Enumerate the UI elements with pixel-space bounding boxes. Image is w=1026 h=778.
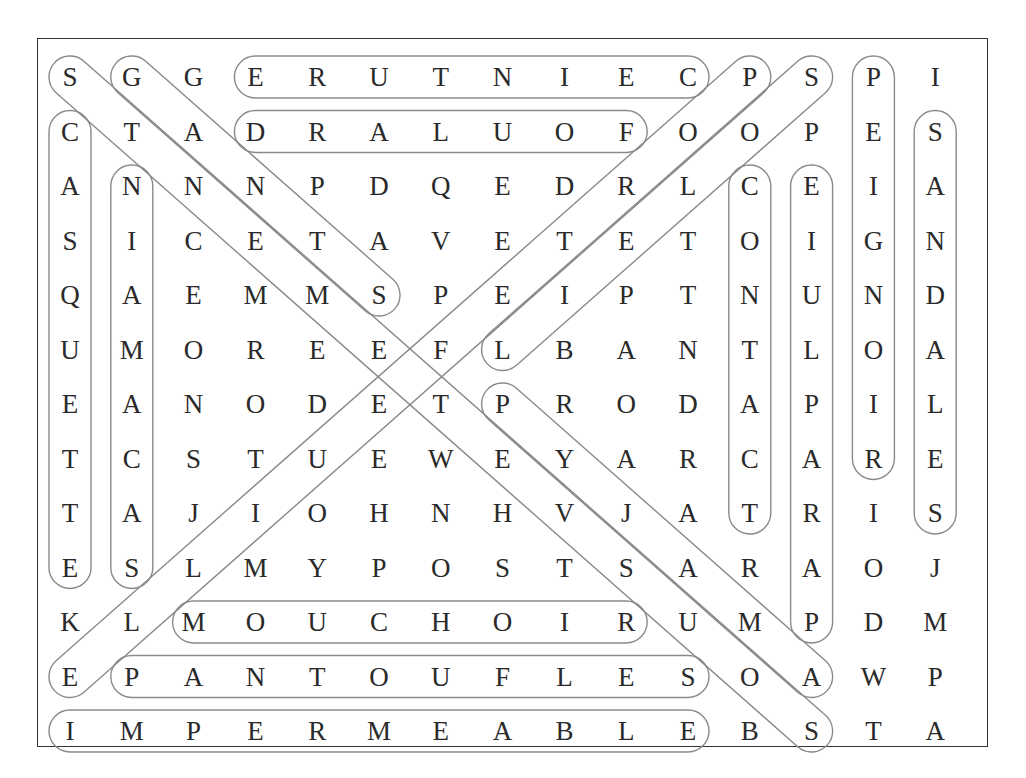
- grid-cell[interactable]: O: [616, 389, 636, 419]
- grid-cell[interactable]: E: [309, 335, 326, 365]
- grid-cell[interactable]: R: [617, 171, 635, 201]
- grid-cell[interactable]: O: [369, 662, 389, 692]
- grid-cell[interactable]: I: [807, 226, 816, 256]
- grid-cell[interactable]: D: [246, 117, 266, 147]
- grid-cell[interactable]: L: [803, 335, 820, 365]
- grid-cell[interactable]: E: [62, 389, 79, 419]
- grid-cell[interactable]: U: [678, 607, 698, 637]
- grid-cell[interactable]: A: [122, 389, 142, 419]
- grid-cell[interactable]: A: [678, 553, 698, 583]
- grid-cell[interactable]: R: [246, 335, 264, 365]
- grid-cell[interactable]: I: [66, 716, 75, 746]
- grid-cell[interactable]: V: [555, 498, 575, 528]
- grid-cell[interactable]: J: [930, 553, 941, 583]
- grid-cell[interactable]: P: [619, 280, 634, 310]
- grid-cell[interactable]: E: [865, 117, 882, 147]
- grid-cell[interactable]: A: [122, 280, 142, 310]
- grid-cell[interactable]: E: [247, 716, 264, 746]
- grid-cell[interactable]: U: [307, 444, 327, 474]
- grid-cell[interactable]: S: [124, 553, 139, 583]
- grid-cell[interactable]: O: [864, 335, 884, 365]
- grid-cell[interactable]: R: [803, 498, 821, 528]
- grid-cell[interactable]: O: [493, 607, 513, 637]
- grid-cell[interactable]: C: [61, 117, 79, 147]
- grid-cell[interactable]: M: [243, 553, 267, 583]
- grid-cell[interactable]: T: [556, 226, 573, 256]
- grid-cell[interactable]: E: [618, 662, 635, 692]
- grid-cell[interactable]: T: [62, 444, 79, 474]
- grid-cell[interactable]: A: [369, 117, 389, 147]
- grid-cell[interactable]: R: [308, 117, 326, 147]
- grid-cell[interactable]: A: [802, 444, 822, 474]
- grid-cell[interactable]: P: [742, 62, 757, 92]
- grid-cell[interactable]: N: [493, 62, 513, 92]
- grid-cell[interactable]: U: [307, 607, 327, 637]
- grid-cell[interactable]: M: [120, 716, 144, 746]
- grid-cell[interactable]: N: [925, 226, 945, 256]
- grid-cell[interactable]: A: [493, 716, 513, 746]
- grid-cell[interactable]: E: [247, 62, 264, 92]
- grid-cell[interactable]: H: [493, 498, 513, 528]
- grid-cell[interactable]: S: [804, 716, 819, 746]
- grid-cell[interactable]: L: [185, 553, 202, 583]
- grid-cell[interactable]: O: [246, 607, 266, 637]
- grid-cell[interactable]: H: [431, 607, 451, 637]
- grid-cell[interactable]: P: [928, 662, 943, 692]
- grid-cell[interactable]: T: [309, 662, 326, 692]
- grid-cell[interactable]: G: [864, 226, 884, 256]
- grid-cell[interactable]: U: [802, 280, 822, 310]
- grid-cell[interactable]: O: [864, 553, 884, 583]
- grid-cell[interactable]: F: [619, 117, 634, 147]
- grid-cell[interactable]: A: [184, 662, 204, 692]
- grid-cell[interactable]: I: [869, 389, 878, 419]
- grid-cell[interactable]: E: [494, 280, 511, 310]
- grid-cell[interactable]: N: [246, 171, 266, 201]
- grid-cell[interactable]: A: [740, 389, 760, 419]
- grid-cell[interactable]: M: [305, 280, 329, 310]
- grid-cell[interactable]: M: [243, 280, 267, 310]
- grid-cell[interactable]: S: [928, 498, 943, 528]
- grid-cell[interactable]: I: [869, 171, 878, 201]
- grid-cell[interactable]: J: [621, 498, 632, 528]
- grid-cell[interactable]: A: [616, 444, 636, 474]
- grid-cell[interactable]: T: [124, 117, 141, 147]
- grid-cell[interactable]: E: [618, 226, 635, 256]
- grid-cell[interactable]: E: [185, 280, 202, 310]
- grid-cell[interactable]: U: [369, 62, 389, 92]
- grid-cell[interactable]: N: [740, 280, 760, 310]
- grid-cell[interactable]: O: [555, 117, 575, 147]
- grid-cell[interactable]: I: [560, 607, 569, 637]
- grid-cell[interactable]: E: [494, 171, 511, 201]
- grid-cell[interactable]: O: [740, 117, 760, 147]
- grid-cell[interactable]: L: [556, 662, 573, 692]
- grid-cell[interactable]: A: [184, 117, 204, 147]
- grid-cell[interactable]: P: [186, 716, 201, 746]
- grid-cell[interactable]: R: [864, 444, 882, 474]
- grid-cell[interactable]: I: [251, 498, 260, 528]
- grid-cell[interactable]: I: [931, 62, 940, 92]
- grid-cell[interactable]: H: [369, 498, 389, 528]
- grid-cell[interactable]: R: [617, 607, 635, 637]
- grid-cell[interactable]: G: [184, 62, 204, 92]
- grid-cell[interactable]: O: [431, 553, 451, 583]
- grid-cell[interactable]: E: [927, 444, 944, 474]
- grid-cell[interactable]: Y: [307, 553, 327, 583]
- grid-cell[interactable]: T: [433, 62, 450, 92]
- grid-cell[interactable]: C: [741, 171, 759, 201]
- grid-cell[interactable]: K: [60, 607, 80, 637]
- grid-cell[interactable]: C: [679, 62, 697, 92]
- grid-cell[interactable]: W: [861, 662, 887, 692]
- grid-cell[interactable]: O: [184, 335, 204, 365]
- grid-cell[interactable]: P: [310, 171, 325, 201]
- grid-cell[interactable]: E: [371, 335, 388, 365]
- grid-cell[interactable]: E: [62, 662, 79, 692]
- grid-cell[interactable]: E: [371, 389, 388, 419]
- grid-cell[interactable]: A: [802, 662, 822, 692]
- grid-cell[interactable]: U: [493, 117, 513, 147]
- grid-cell[interactable]: A: [122, 498, 142, 528]
- grid-cell[interactable]: B: [555, 716, 573, 746]
- grid-cell[interactable]: N: [864, 280, 884, 310]
- grid-cell[interactable]: R: [308, 62, 326, 92]
- grid-cell[interactable]: R: [679, 444, 697, 474]
- grid-cell[interactable]: E: [247, 226, 264, 256]
